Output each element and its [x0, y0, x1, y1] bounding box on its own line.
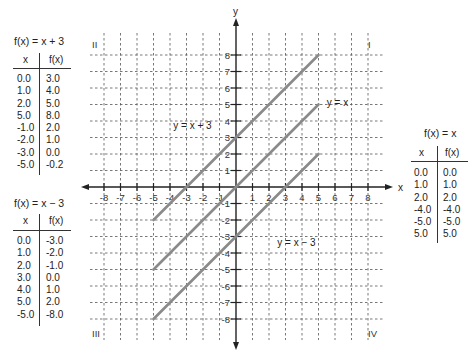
x-axis-label: x: [398, 182, 403, 193]
x-tick-label: 1: [250, 192, 255, 203]
y-tick-label: 4: [225, 116, 230, 127]
y-tick-label: 6: [225, 83, 230, 94]
x-tick-label: -7: [116, 192, 124, 203]
x-axis-left-arrow-icon: [81, 184, 89, 190]
y-tick-label: 3: [225, 132, 230, 143]
x-tick-label: -8: [100, 192, 108, 203]
x-tick-label: -3: [182, 192, 190, 203]
x-tick-label: 7: [349, 192, 354, 203]
y-tick-label: -7: [222, 297, 230, 308]
x-tick-label: 6: [332, 192, 337, 203]
y-tick-label: -5: [222, 264, 230, 275]
quadrant-label: I: [368, 39, 371, 50]
y-tick-label: -8: [222, 314, 230, 325]
y-tick-label: 5: [225, 99, 230, 110]
axes: xy: [81, 6, 403, 350]
y-tick-label: 2: [225, 149, 230, 160]
x-tick-label: 5: [316, 192, 321, 203]
y-axis-up-arrow-icon: [233, 18, 239, 26]
quadrant-label: IV: [368, 328, 378, 339]
y-tick-label: 8: [225, 50, 230, 61]
y-axis-down-arrow-icon: [233, 342, 239, 350]
y-tick-label: -2: [222, 215, 230, 226]
y-tick-label: 7: [225, 66, 230, 77]
quadrant-label: II: [92, 39, 97, 50]
line-label: y = x: [327, 97, 348, 108]
x-tick-label: -5: [149, 192, 157, 203]
x-axis-right-arrow-icon: [385, 184, 393, 190]
line-label: y = x + 3: [173, 120, 212, 131]
line-label: y = x − 3: [277, 237, 316, 248]
coordinate-plane: xy -8-7-6-5-4-3-2-11234567887654321-1-2-…: [0, 0, 476, 356]
y-tick-label: -6: [222, 281, 230, 292]
x-tick-label: 8: [365, 192, 370, 203]
quadrant-label: III: [92, 328, 100, 339]
y-tick-label: 1: [225, 165, 230, 176]
y-axis-label: y: [233, 6, 238, 17]
x-tick-label: 4: [299, 192, 304, 203]
y-tick-label: -3: [222, 231, 230, 242]
x-tick-label: 3: [283, 192, 288, 203]
x-tick-label: -2: [199, 192, 207, 203]
x-tick-label: -6: [133, 192, 141, 203]
